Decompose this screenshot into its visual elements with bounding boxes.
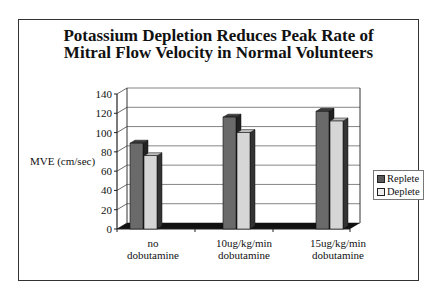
side-grid-line: [117, 127, 127, 133]
y-tick-label: 80: [101, 146, 113, 158]
y-tick-label: 100: [96, 127, 113, 139]
x-label-line: dobutamine: [298, 249, 378, 261]
x-label-line: dobutamine: [113, 249, 193, 261]
x-label-no-dobutamine: no dobutamine: [113, 237, 193, 261]
legend-label-deplete: Deplete: [387, 185, 420, 198]
side-grid-line: [117, 107, 127, 113]
deplete-swatch-icon: [377, 188, 385, 196]
bar-deplete: [144, 156, 157, 229]
bar-deplete: [330, 121, 343, 229]
y-tick-label: 0: [107, 223, 113, 235]
y-tick-label: 60: [101, 165, 113, 177]
side-grid-line: [117, 165, 127, 171]
replete-swatch-icon: [377, 175, 385, 183]
side-grid-line: [117, 88, 127, 94]
side-grid-line: [117, 184, 127, 190]
legend: Replete Deplete: [373, 170, 424, 200]
x-label-line: no: [113, 237, 193, 249]
x-label-line: 15ug/kg/min: [298, 237, 378, 249]
bar-replete: [130, 143, 143, 229]
bar-side: [250, 130, 255, 229]
x-label-15ug: 15ug/kg/min dobutamine: [298, 237, 378, 261]
side-grid-line: [117, 204, 127, 210]
y-tick-label: 40: [101, 184, 113, 196]
y-tick-label: 120: [96, 107, 113, 119]
x-label-line: dobutamine: [204, 249, 284, 261]
bar-side: [157, 153, 162, 229]
bar-replete: [223, 117, 236, 229]
x-label-line: 10ug/kg/min: [204, 237, 284, 249]
bar-replete: [316, 111, 329, 229]
bar-deplete: [237, 133, 250, 229]
bar-side: [343, 118, 348, 229]
legend-label-replete: Replete: [387, 172, 419, 185]
y-tick-label: 140: [96, 88, 113, 100]
side-grid-line: [117, 146, 127, 152]
legend-item-replete: Replete: [377, 172, 420, 185]
x-label-10ug: 10ug/kg/min dobutamine: [204, 237, 284, 261]
legend-item-deplete: Deplete: [377, 185, 420, 198]
y-tick-label: 20: [101, 204, 113, 216]
